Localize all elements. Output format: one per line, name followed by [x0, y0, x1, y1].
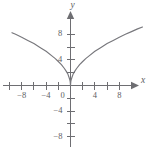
xtick-label-minus4: −4 [42, 90, 52, 100]
xtick-label-8: 8 [117, 90, 121, 100]
x-axis-arrow [131, 82, 139, 89]
y-axis-label: y [69, 0, 75, 10]
ytick-label-minus8: −8 [53, 131, 62, 141]
y-axis-arrow [67, 11, 74, 19]
ytick-label-minus4: −4 [53, 105, 63, 115]
xtick-label-zero: 0 [60, 90, 64, 100]
ytick-label-8: 8 [58, 28, 62, 38]
function-curve [12, 27, 143, 86]
graph-figure: −8 −4 0 4 8 8 4 −4 −8 x y [0, 0, 146, 147]
ytick-label-4: 4 [58, 54, 63, 64]
xtick-label-minus8: −8 [17, 90, 26, 100]
xtick-label-4: 4 [93, 90, 98, 100]
x-axis-label: x [140, 75, 146, 85]
coordinate-plane: −8 −4 0 4 8 8 4 −4 −8 x y [0, 0, 146, 147]
